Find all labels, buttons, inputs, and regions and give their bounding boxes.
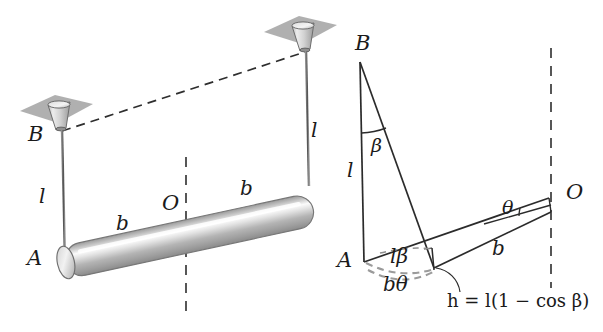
label-point-a-left: A: [27, 248, 42, 269]
wire-right: [306, 51, 309, 186]
label-point-b-right: B: [355, 33, 370, 54]
label-point-b-left: B: [28, 124, 43, 145]
ceiling-mount-right: [264, 16, 337, 52]
label-half-span-right: b: [240, 178, 253, 198]
angle-beta-arc: [361, 128, 386, 133]
angle-theta-arc: [519, 208, 520, 216]
label-arc-b-theta: bθ: [383, 274, 408, 294]
label-half-span-left: b: [116, 213, 129, 233]
label-point-o-right: O: [566, 182, 583, 203]
figure-vector-canvas: [0, 0, 603, 332]
label-height-formula: h = l(1 − cos β): [447, 292, 589, 310]
wire-swung-B-to-Aprime: [360, 62, 434, 268]
ceiling-span-dashed-line: [62, 52, 305, 131]
label-wire-right-length: l: [311, 120, 317, 140]
label-angle-beta: β: [371, 136, 382, 155]
label-wire-left-length: l: [39, 186, 45, 206]
wire-vertical-BA: [360, 62, 364, 262]
label-radius-b: b: [492, 238, 505, 258]
theta-wedge-line: [484, 205, 551, 224]
wire-left: [62, 130, 65, 259]
physics-figure-bifilar-pendulum: B l A l b O b B β l A lβ bθ θ b O h = l(…: [0, 0, 603, 332]
label-angle-theta: θ: [502, 198, 513, 217]
label-point-o-left: O: [162, 193, 179, 214]
label-wire-length-right: l: [347, 160, 353, 180]
label-arc-l-beta: lβ: [390, 246, 408, 266]
label-point-a-right: A: [337, 250, 352, 271]
